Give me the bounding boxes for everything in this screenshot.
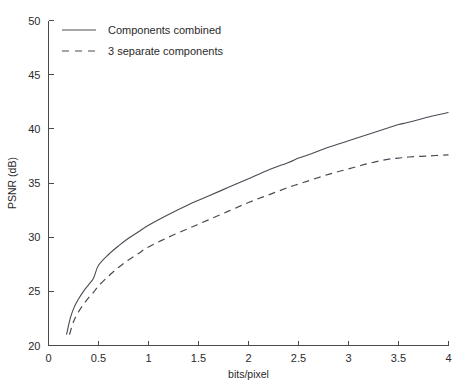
x-tick-label: 3 [345,352,351,364]
y-tick-label: 35 [28,177,40,189]
y-tick-label: 50 [28,15,40,27]
x-tick-label: 3.5 [391,352,406,364]
x-tick-label: 1.5 [191,352,206,364]
y-axis-title: PSNR (dB) [6,157,18,209]
x-tick-label: 0 [45,352,51,364]
axis-spines [49,21,449,346]
x-tick-label: 2.5 [291,352,306,364]
data-series-1 [67,113,449,335]
y-tick-label: 40 [28,123,40,135]
data-series-2 [70,155,449,335]
y-tick-label: 30 [28,231,40,243]
legend-label-1: Components combined [108,24,221,36]
x-tick-label: 1 [145,352,151,364]
x-tick-label: 2 [245,352,251,364]
x-tick-label: 4 [445,352,451,364]
psnr-rate-line-chart: 2025303540455000.511.522.533.54bits/pixe… [0,0,467,387]
y-tick-label: 45 [28,69,40,81]
y-tick-label: 25 [28,285,40,297]
figure-container: 2025303540455000.511.522.533.54bits/pixe… [0,0,467,387]
legend-label-2: 3 separate components [108,45,223,57]
y-tick-label: 20 [28,340,40,352]
x-axis-title: bits/pixel [228,368,269,380]
x-tick-label: 0.5 [91,352,106,364]
